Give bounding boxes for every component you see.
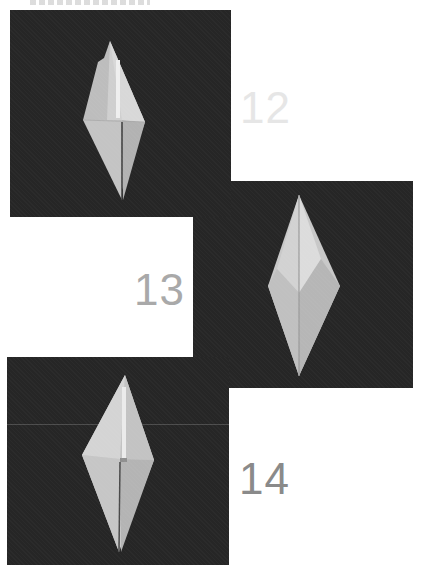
step-14-photo [7, 357, 229, 565]
cropped-header-text [30, 0, 150, 5]
step-12-photo [10, 10, 231, 217]
step-number-12: 12 [240, 86, 291, 130]
origami-crane-icon [10, 10, 231, 217]
step-number-14: 14 [239, 457, 290, 501]
step-number-13: 13 [134, 268, 185, 312]
origami-crane-icon [7, 357, 229, 565]
